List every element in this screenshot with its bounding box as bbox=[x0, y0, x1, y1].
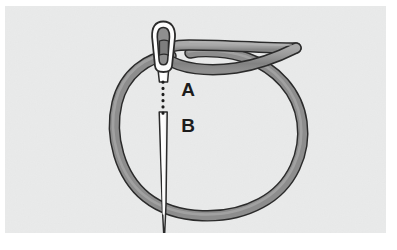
thread-inside-eye bbox=[160, 40, 169, 55]
label-a: A bbox=[181, 79, 195, 100]
figure-root: A B bbox=[0, 0, 397, 250]
label-b: B bbox=[181, 115, 195, 136]
needle-thread-diagram: A B bbox=[0, 0, 397, 250]
